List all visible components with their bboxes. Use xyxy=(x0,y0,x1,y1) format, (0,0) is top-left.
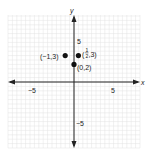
coordinate-plane: x −5 5 y 5 −5 (−1,3) ( 1 2 ,3) (0,2) xyxy=(0,0,147,156)
point-0-2 xyxy=(71,62,76,67)
y-tick-neg5: −5 xyxy=(76,120,84,127)
point-half-3 xyxy=(76,53,81,58)
svg-text:,3): ,3) xyxy=(89,51,97,59)
y-axis-down-arrow-icon xyxy=(72,141,77,148)
y-axis-label: y xyxy=(69,7,74,15)
x-tick-pos5: 5 xyxy=(111,87,115,94)
point-neg1-3 xyxy=(63,53,68,58)
x-axis-label: x xyxy=(140,79,145,86)
x-axis-left-arrow-icon xyxy=(8,80,15,85)
label-point-neg1-3: (−1,3) xyxy=(40,53,58,61)
label-point-half-3: ( 1 2 ,3) xyxy=(82,47,97,60)
y-tick-pos5: 5 xyxy=(77,38,81,45)
x-tick-neg5: −5 xyxy=(28,87,36,94)
data-points: (−1,3) ( 1 2 ,3) (0,2) xyxy=(40,47,97,72)
x-axis-right-arrow-icon xyxy=(133,80,140,85)
label-point-0-2: (0,2) xyxy=(77,64,91,72)
